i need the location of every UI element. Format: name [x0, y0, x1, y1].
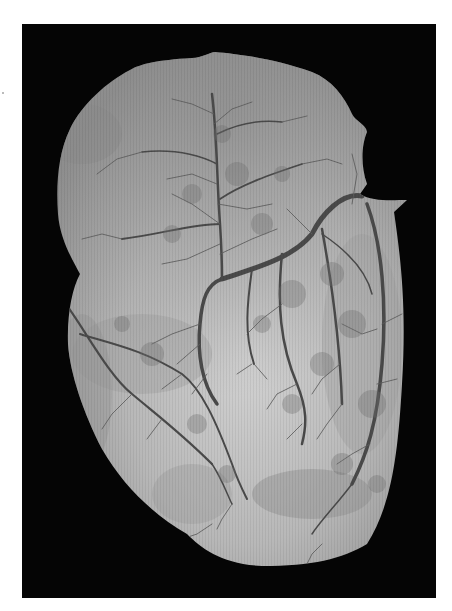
heart-illustration	[22, 24, 436, 598]
photo-frame: Heart with coronary vessel tree on black…	[22, 24, 436, 598]
stray-mark	[2, 92, 4, 94]
page: Heart with coronary vessel tree on black…	[0, 0, 452, 611]
